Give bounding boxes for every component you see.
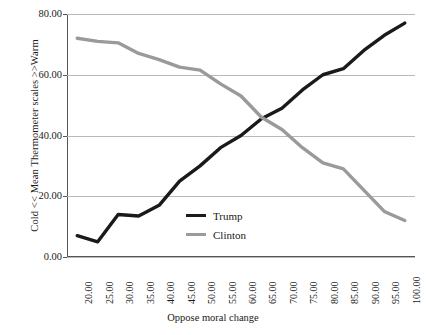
y-axis-tick-labels: 0.0020.0040.0060.0080.00 <box>16 0 62 335</box>
x-tick-label: 40.00 <box>166 282 176 305</box>
x-axis-tick-labels: 20.0025.0030.0035.0040.0045.0050.0055.00… <box>67 258 415 308</box>
y-tick-label: 60.00 <box>20 70 62 81</box>
legend-swatch-trump <box>186 214 206 217</box>
y-tick-label: 20.00 <box>20 191 62 202</box>
legend-label-clinton: Clinton <box>213 229 246 241</box>
x-tick-label: 50.00 <box>207 282 217 305</box>
x-axis-title: Oppose moral change <box>0 312 426 323</box>
x-tick-label: 70.00 <box>289 282 299 305</box>
x-tick-label: 55.00 <box>228 282 238 305</box>
y-tick-label: 0.00 <box>20 252 62 263</box>
x-tick-label: 95.00 <box>391 282 401 305</box>
x-tick-label: 90.00 <box>371 282 381 305</box>
series-line-clinton <box>77 38 405 220</box>
x-tick-label: 30.00 <box>125 282 135 305</box>
legend-entry-trump: Trump <box>186 206 296 225</box>
x-tick-label: 65.00 <box>268 282 278 305</box>
line-chart-figure: Cold << Mean Thermometer scales >>Warm 0… <box>0 0 426 335</box>
x-tick-label: 20.00 <box>84 282 94 305</box>
x-tick-label: 45.00 <box>187 282 197 305</box>
x-tick-label: 80.00 <box>330 282 340 305</box>
x-tick-label: 75.00 <box>309 282 319 305</box>
x-tick-label: 60.00 <box>248 282 258 305</box>
y-tick-label: 80.00 <box>20 9 62 20</box>
legend-label-trump: Trump <box>213 210 243 222</box>
y-tick-label: 40.00 <box>20 131 62 142</box>
x-tick-label: 25.00 <box>105 282 115 305</box>
x-tick-label: 85.00 <box>350 282 360 305</box>
x-tick-label: 100.00 <box>412 277 422 305</box>
legend-swatch-clinton <box>186 233 206 236</box>
legend-entry-clinton: Clinton <box>186 225 296 244</box>
chart-legend: Trump Clinton <box>186 206 296 244</box>
x-tick-label: 35.00 <box>146 282 156 305</box>
